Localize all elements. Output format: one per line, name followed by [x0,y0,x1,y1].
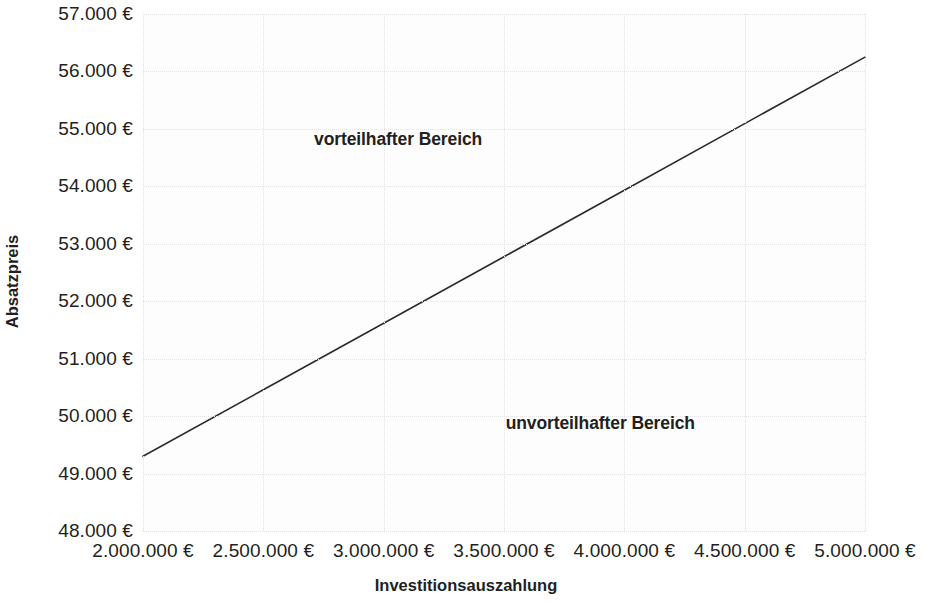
y-axis-tick-labels: 57.000 €56.000 €55.000 €54.000 €53.000 €… [0,0,133,604]
x-axis-tick-label: 2.500.000 € [213,540,314,562]
gridline-vertical [143,14,144,531]
y-axis-tick-label: 50.000 € [11,405,133,427]
annotation-advantageous: vorteilhafter Bereich [314,128,482,149]
x-axis-tick-label: 3.500.000 € [453,540,554,562]
gridline-vertical [263,14,264,531]
gridline-horizontal [143,244,865,245]
gridline-horizontal [143,416,865,417]
y-axis-tick-label: 54.000 € [11,175,133,197]
gridline-horizontal [143,474,865,475]
chart-container: Absatzpreis 57.000 €56.000 €55.000 €54.0… [0,0,932,604]
gridline-vertical [745,14,746,531]
x-axis-tick-label: 3.000.000 € [333,540,434,562]
x-axis-tick-labels: 2.000.000 €2.500.000 €3.000.000 €3.500.0… [0,540,932,570]
y-axis-tick-label: 48.000 € [11,520,133,542]
gridline-horizontal [143,129,865,130]
gridline-horizontal [143,71,865,72]
annotation-disadvantageous: unvorteilhafter Bereich [506,413,695,434]
y-axis-tick-label: 53.000 € [11,233,133,255]
x-axis-tick-label: 5.000.000 € [814,540,915,562]
gridline-horizontal [143,359,865,360]
x-axis-tick-label: 4.500.000 € [694,540,795,562]
x-axis-title: Investitionsauszahlung [0,576,932,595]
gridline-horizontal [143,531,865,532]
gridline-vertical [504,14,505,531]
gridline-vertical [384,14,385,531]
y-axis-tick-label: 49.000 € [11,463,133,485]
y-axis-tick-label: 57.000 € [11,3,133,25]
gridline-vertical [865,14,866,531]
x-axis-tick-label: 2.000.000 € [92,540,193,562]
gridline-horizontal [143,301,865,302]
plot-area: vorteilhafter Bereichunvorteilhafter Ber… [143,14,865,531]
y-axis-tick-label: 51.000 € [11,348,133,370]
gridline-vertical [624,14,625,531]
gridline-horizontal [143,14,865,15]
y-axis-tick-label: 56.000 € [11,60,133,82]
x-axis-tick-label: 4.000.000 € [574,540,675,562]
gridline-horizontal [143,186,865,187]
y-axis-tick-label: 52.000 € [11,290,133,312]
y-axis-tick-label: 55.000 € [11,118,133,140]
